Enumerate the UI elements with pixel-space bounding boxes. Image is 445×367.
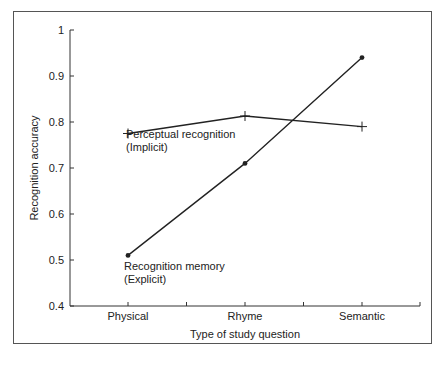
dot-marker bbox=[243, 161, 248, 166]
line-chart: 0.40.50.60.70.80.91PhysicalRhymeSemantic… bbox=[0, 0, 445, 367]
y-axis-label: Recognition accuracy bbox=[28, 115, 40, 221]
explicit-label-line2: (Explicit) bbox=[124, 273, 166, 285]
x-axis-label: Type of study question bbox=[190, 328, 300, 340]
implicit-label-line1: Perceptual recognition bbox=[126, 128, 235, 140]
x-tick-label: Rhyme bbox=[228, 310, 263, 322]
y-tick-label: 0.5 bbox=[49, 254, 64, 266]
dot-marker bbox=[126, 253, 131, 258]
axes: 0.40.50.60.70.80.91PhysicalRhymeSemantic bbox=[49, 24, 420, 322]
y-tick-label: 0.4 bbox=[49, 300, 64, 312]
y-tick-label: 0.6 bbox=[49, 208, 64, 220]
x-tick-label: Semantic bbox=[339, 310, 385, 322]
explicit-line bbox=[128, 58, 362, 256]
y-tick-label: 0.7 bbox=[49, 162, 64, 174]
series-lines bbox=[123, 55, 367, 258]
y-tick-label: 0.9 bbox=[49, 70, 64, 82]
y-tick-label: 1 bbox=[58, 24, 64, 36]
y-tick-label: 0.8 bbox=[49, 116, 64, 128]
explicit-label-line1: Recognition memory bbox=[124, 260, 225, 272]
x-tick-label: Physical bbox=[108, 310, 149, 322]
implicit-label-line2: (Implicit) bbox=[126, 141, 168, 153]
dot-marker bbox=[360, 55, 365, 60]
